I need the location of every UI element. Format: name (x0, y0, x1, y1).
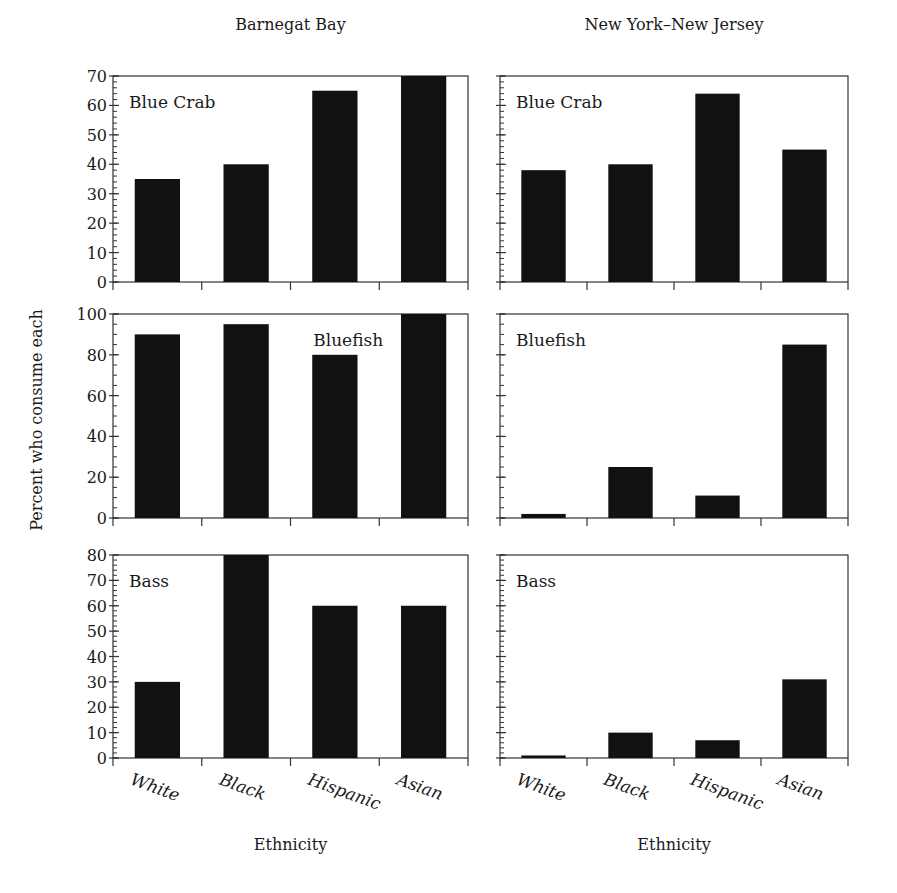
y-tick-label: 40 (87, 427, 107, 446)
figure-canvas: Barnegat BayNew York–New Jersey 01020304… (0, 0, 897, 893)
bar-white (135, 179, 180, 282)
y-tick-label: 60 (87, 96, 107, 115)
y-tick-label: 80 (87, 346, 107, 365)
bar-black (223, 555, 268, 758)
y-tick-label: 30 (87, 185, 107, 204)
panel-bass-barnegat-bay: 01020304050607080BassWhiteBlackHispanicA… (87, 546, 468, 814)
bar-white (521, 755, 565, 758)
species-label: Bass (516, 571, 556, 591)
bar-white (521, 514, 565, 518)
panel-blue-crab-ny-nj: Blue Crab (496, 76, 848, 290)
species-label: Bluefish (516, 330, 586, 350)
y-axis-title: Percent who consume each (27, 309, 46, 531)
bar-asian (401, 606, 446, 758)
y-tick-label: 0 (97, 749, 107, 768)
y-tick-label: 10 (87, 244, 107, 263)
bar-hispanic (312, 91, 357, 282)
x-tick-label-white: White (128, 769, 183, 805)
panel-bluefish-ny-nj: Bluefish (496, 314, 848, 526)
y-tick-label: 40 (87, 155, 107, 174)
x-axis-title-0: Ethnicity (254, 835, 327, 854)
panels: 010203040506070Blue CrabBlue Crab0204060… (76, 67, 848, 814)
y-tick-label: 20 (87, 214, 107, 233)
x-tick-label-hispanic: Hispanic (687, 769, 767, 814)
column-titles: Barnegat BayNew York–New Jersey (235, 15, 763, 34)
x-tick-label-asian: Asian (392, 768, 445, 804)
bar-asian (401, 76, 446, 282)
x-tick-label-hispanic: Hispanic (305, 769, 385, 814)
y-tick-label: 30 (87, 673, 107, 692)
y-tick-label: 50 (87, 622, 107, 641)
y-tick-label: 60 (87, 387, 107, 406)
bar-asian (782, 150, 826, 282)
y-tick-label: 60 (87, 597, 107, 616)
bar-white (135, 334, 180, 518)
bar-hispanic (312, 606, 357, 758)
y-tick-label: 100 (76, 305, 107, 324)
bar-white (135, 682, 180, 758)
panel-bass-ny-nj: BassWhiteBlackHispanicAsian (496, 555, 848, 814)
y-tick-label: 10 (87, 724, 107, 743)
bar-hispanic (695, 496, 739, 518)
bar-hispanic (695, 740, 739, 758)
bar-black (608, 733, 652, 758)
bar-hispanic (695, 94, 739, 282)
y-tick-label: 70 (87, 571, 107, 590)
species-label: Bass (129, 571, 169, 591)
column-title-0: Barnegat Bay (235, 15, 345, 34)
species-label: Blue Crab (516, 92, 603, 112)
panel-bluefish-barnegat-bay: 020406080100Bluefish (76, 305, 468, 528)
bar-asian (401, 314, 446, 518)
x-tick-label-asian: Asian (773, 768, 826, 804)
y-tick-label: 0 (97, 273, 107, 292)
panel-blue-crab-barnegat-bay: 010203040506070Blue Crab (87, 67, 468, 292)
y-tick-label: 0 (97, 509, 107, 528)
y-tick-label: 50 (87, 126, 107, 145)
y-tick-label: 70 (87, 67, 107, 86)
y-tick-label: 80 (87, 546, 107, 565)
bar-black (223, 324, 268, 518)
column-title-1: New York–New Jersey (585, 15, 764, 34)
bar-hispanic (312, 355, 357, 518)
bar-black (608, 164, 652, 282)
species-label: Bluefish (313, 330, 383, 350)
bar-black (223, 164, 268, 282)
x-tick-label-white: White (514, 769, 569, 805)
x-tick-label-black: Black (216, 769, 269, 805)
species-label: Blue Crab (129, 92, 216, 112)
y-tick-label: 40 (87, 648, 107, 667)
bar-asian (782, 345, 826, 518)
bar-asian (782, 679, 826, 758)
y-tick-label: 20 (87, 468, 107, 487)
y-tick-label: 20 (87, 698, 107, 717)
x-axis-titles: EthnicityEthnicity (254, 835, 711, 854)
x-axis-title-1: Ethnicity (637, 835, 710, 854)
bar-white (521, 170, 565, 282)
x-tick-label-black: Black (600, 769, 653, 805)
bar-black (608, 467, 652, 518)
